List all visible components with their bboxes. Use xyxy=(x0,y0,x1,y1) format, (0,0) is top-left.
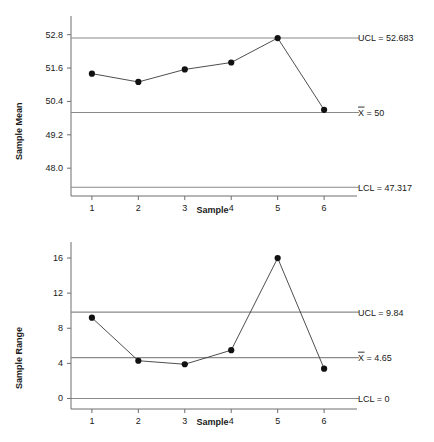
data-point-marker[interactable] xyxy=(135,358,141,364)
control-limit-label-cl: X = 4.65 xyxy=(358,353,392,363)
x-tick-label: 4 xyxy=(229,203,234,213)
y-tick-label: 50.4 xyxy=(45,96,63,106)
r-control-chart: Sample Range Sample 1612840123456UCL = 9… xyxy=(0,221,434,442)
y-tick-label: 16 xyxy=(53,253,63,263)
x-tick-label: 2 xyxy=(136,416,141,426)
data-point-marker[interactable] xyxy=(182,361,188,367)
x-tick-label: 6 xyxy=(322,416,327,426)
series-line xyxy=(92,258,324,369)
control-limit-label-cl: X = 50 xyxy=(358,108,384,118)
x-tick-label: 1 xyxy=(89,416,94,426)
y-tick-label: 51.6 xyxy=(45,63,63,73)
y-tick-label: 4 xyxy=(58,358,63,368)
control-limit-label-ucl: UCL = 52.683 xyxy=(358,33,413,43)
data-point-marker[interactable] xyxy=(89,315,95,321)
xbar-plot-area: 52.851.650.449.248.0123456UCL = 52.683X … xyxy=(0,0,434,221)
y-tick-label: 8 xyxy=(58,323,63,333)
y-tick-label: 52.8 xyxy=(45,30,63,40)
x-tick-label: 5 xyxy=(275,416,280,426)
x-tick-label: 3 xyxy=(182,203,187,213)
r-plot-area: 1612840123456UCL = 9.84X = 4.65LCL = 0 xyxy=(0,221,434,442)
y-tick-label: 49.2 xyxy=(45,130,63,140)
y-tick-label: 48.0 xyxy=(45,163,63,173)
x-tick-label: 6 xyxy=(322,203,327,213)
y-tick-label: 0 xyxy=(58,393,63,403)
x-tick-label: 5 xyxy=(275,203,280,213)
data-point-marker[interactable] xyxy=(182,66,188,72)
y-tick-label: 12 xyxy=(53,288,63,298)
data-point-marker[interactable] xyxy=(321,107,327,113)
x-tick-label: 3 xyxy=(182,416,187,426)
control-limit-label-lcl: LCL = 47.317 xyxy=(358,183,412,193)
x-tick-label: 4 xyxy=(229,416,234,426)
data-point-marker[interactable] xyxy=(135,79,141,85)
data-point-marker[interactable] xyxy=(89,71,95,77)
x-tick-label: 1 xyxy=(89,203,94,213)
control-chart-figure: Sample Mean Sample 52.851.650.449.248.01… xyxy=(0,0,434,442)
data-point-marker[interactable] xyxy=(275,35,281,41)
control-limit-label-ucl: UCL = 9.84 xyxy=(358,308,403,318)
control-limit-label-lcl: LCL = 0 xyxy=(358,394,389,404)
series-line xyxy=(92,38,324,110)
data-point-marker[interactable] xyxy=(228,59,234,65)
data-point-marker[interactable] xyxy=(321,366,327,372)
data-point-marker[interactable] xyxy=(275,255,281,261)
x-tick-label: 2 xyxy=(136,203,141,213)
data-point-marker[interactable] xyxy=(228,347,234,353)
xbar-control-chart: Sample Mean Sample 52.851.650.449.248.01… xyxy=(0,0,434,221)
